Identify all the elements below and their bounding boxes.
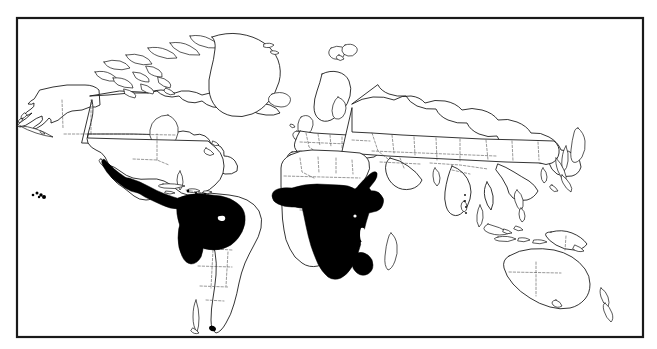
- world-distribution-map: [0, 0, 657, 349]
- distribution-map-figure: [0, 0, 657, 349]
